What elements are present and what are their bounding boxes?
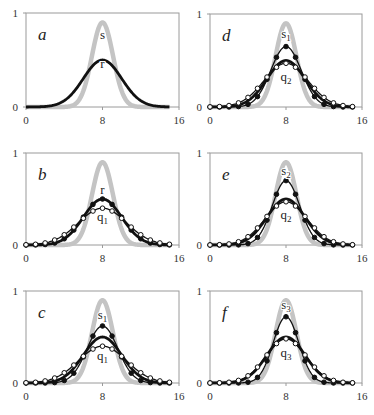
series-q2-marker <box>255 86 260 91</box>
x-tick-label: 16 <box>357 390 369 402</box>
series-q2-marker <box>236 239 241 244</box>
series-filled-marker <box>312 235 317 240</box>
series-q1-marker <box>81 354 86 359</box>
series-q3-marker <box>255 365 260 370</box>
series-q2-marker <box>246 95 251 100</box>
series-q2-marker <box>312 86 317 91</box>
x-tick-label: 8 <box>100 252 106 264</box>
series-q3-marker <box>303 353 308 358</box>
x-tick-label: 8 <box>100 114 106 126</box>
series-q1-marker <box>72 225 77 230</box>
series-q2-marker <box>236 101 241 106</box>
series-filled-marker <box>110 334 115 339</box>
series-q2-marker <box>303 75 308 80</box>
series-filled-marker <box>284 314 289 319</box>
series-filled-marker <box>312 94 317 99</box>
x-tick-label: 0 <box>207 390 213 402</box>
panel-e: 081610es2q2 <box>197 147 369 264</box>
series-q1-marker <box>129 225 134 230</box>
series-q1-marker <box>33 242 38 247</box>
series-q1-marker <box>43 241 48 246</box>
series-q1-marker <box>91 209 96 214</box>
series-q2-marker <box>312 226 317 231</box>
x-tick-label: 16 <box>357 252 369 264</box>
series-q2-marker <box>217 104 222 109</box>
series-filled-marker <box>274 192 279 197</box>
y-tick-label: 0 <box>13 101 19 113</box>
panel-c: 081610cs1q1 <box>13 285 186 402</box>
series-q1-marker <box>110 209 115 214</box>
panel-a: 081610asr <box>13 7 186 126</box>
series-q3-marker <box>293 341 298 346</box>
x-tick-label: 16 <box>174 114 186 126</box>
curve-label: q1 <box>97 348 108 365</box>
series-q2-marker <box>341 242 346 247</box>
series-q1-marker <box>52 376 57 381</box>
y-tick-label: 1 <box>13 147 19 159</box>
series-q2-marker <box>255 226 260 231</box>
series-q1-marker <box>148 238 153 243</box>
series-q1-marker <box>72 363 77 368</box>
curve-label: r <box>100 56 105 71</box>
series-q3-marker <box>236 378 241 383</box>
series-q2-marker <box>322 95 327 100</box>
series-filled-marker <box>293 192 298 197</box>
series-q2-marker <box>303 214 308 219</box>
series-q1-marker <box>167 242 172 247</box>
curve-label: q2 <box>281 69 292 86</box>
x-tick-label: 0 <box>207 114 213 126</box>
series-q2-marker <box>350 242 355 247</box>
series-q3-marker <box>246 374 251 379</box>
series-filled-marker <box>148 380 153 385</box>
series-filled-marker <box>100 324 105 329</box>
y-tick-label: 0 <box>197 239 203 251</box>
y-tick-label: 0 <box>13 239 19 251</box>
series-q2-marker <box>350 104 355 109</box>
series-filled-marker <box>62 378 67 383</box>
x-tick-label: 16 <box>174 252 186 264</box>
series-filled-marker <box>322 102 327 107</box>
series-q1-marker <box>129 363 134 368</box>
series-q2-marker <box>322 234 327 239</box>
x-tick-label: 8 <box>283 390 289 402</box>
x-tick-label: 0 <box>23 390 29 402</box>
series-q2-marker <box>227 242 232 247</box>
series-filled-marker <box>255 94 260 99</box>
panel-label: a <box>38 25 47 44</box>
series-q3-marker <box>274 341 279 346</box>
series-q3-marker <box>284 337 289 342</box>
series-filled-marker <box>293 55 298 60</box>
series-filled-marker <box>52 380 57 385</box>
curve-label: q1 <box>97 209 108 226</box>
x-tick-label: 8 <box>100 390 106 402</box>
series-q2-marker <box>331 239 336 244</box>
series-q2-marker <box>284 61 289 66</box>
series-q3-marker <box>322 374 327 379</box>
series-filled-marker <box>246 241 251 246</box>
series-q2-marker <box>217 242 222 247</box>
series-q2-marker <box>274 65 279 70</box>
x-tick-label: 0 <box>23 114 29 126</box>
series-r-marker <box>91 202 96 207</box>
series-q3-marker <box>265 353 270 358</box>
panel-d: 081610ds1q2 <box>197 8 369 126</box>
series-q1-marker <box>62 232 67 237</box>
y-tick-label: 1 <box>13 285 19 297</box>
series-q2-marker <box>331 101 336 106</box>
y-tick-label: 0 <box>197 377 203 389</box>
series-q2-marker <box>208 243 213 248</box>
series-filled-marker <box>322 241 327 246</box>
series-q1-marker <box>110 347 115 352</box>
series-q2-marker <box>293 204 298 209</box>
panel-b: 081610brq1 <box>13 147 186 264</box>
series-filled-marker <box>312 375 317 380</box>
series-q2-marker <box>208 105 213 110</box>
series-filled-marker <box>322 380 327 385</box>
x-tick-label: 0 <box>207 252 213 264</box>
series-q3-marker <box>208 381 213 386</box>
series-filled-marker <box>72 371 77 376</box>
series-q1-marker <box>119 216 124 221</box>
y-tick-label: 0 <box>197 101 203 113</box>
series-filled-marker <box>293 330 298 335</box>
curve-label: r <box>100 182 105 197</box>
